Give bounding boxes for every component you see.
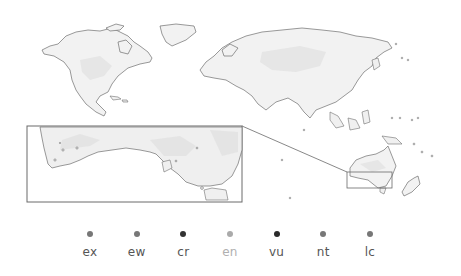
legend-dot <box>227 231 233 237</box>
legend-dot <box>274 231 280 237</box>
inset-map <box>27 126 242 202</box>
greenland <box>160 24 196 46</box>
legend-label: vu <box>269 245 284 259</box>
legend-label: cr <box>177 245 189 259</box>
legend-item-lc: lc <box>350 228 390 268</box>
legend-label: lc <box>365 245 376 259</box>
legend-label: ex <box>83 245 98 259</box>
legend-dot <box>87 231 93 237</box>
legend-item-nt: nt <box>303 228 343 268</box>
legend-label: nt <box>317 245 330 259</box>
north-america <box>42 24 152 116</box>
legend-item-cr: cr <box>163 228 203 268</box>
world-map <box>0 0 461 210</box>
legend-dot <box>367 231 373 237</box>
legend-label: ew <box>128 245 146 259</box>
legend-item-ew: ew <box>117 228 157 268</box>
legend-dot <box>134 231 140 237</box>
new-zealand <box>402 176 420 196</box>
legend-dot <box>320 231 326 237</box>
inset-leader-line <box>242 126 347 172</box>
australia <box>350 146 396 194</box>
legend-item-ex: ex <box>70 228 110 268</box>
legend-label: en <box>222 245 238 259</box>
legend-item-vu: vu <box>257 228 297 268</box>
legend-item-en: en <box>210 228 250 268</box>
status-legend: ex ew cr en vu nt lc <box>70 228 390 268</box>
legend-dot <box>180 231 186 237</box>
